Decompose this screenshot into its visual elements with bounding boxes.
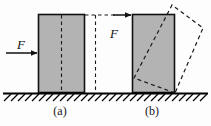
force-label-a: F xyxy=(17,37,25,53)
force-label-b: F xyxy=(110,26,118,42)
block-b-body xyxy=(133,15,175,93)
caption-a: (a) xyxy=(42,104,78,119)
block-a xyxy=(39,15,85,93)
ground-hatch-icon xyxy=(4,94,207,101)
caption-b: (b) xyxy=(134,104,170,119)
physics-figure: F F (a) (b) xyxy=(0,0,211,126)
block-b xyxy=(133,15,175,93)
figure-canvas xyxy=(0,0,211,126)
